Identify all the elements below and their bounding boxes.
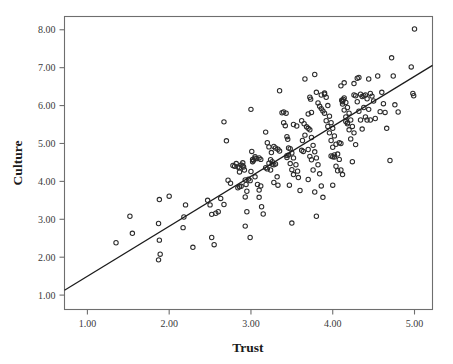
y-tick-label: 7.00 [38,62,56,73]
y-tick-label: 6.00 [38,100,56,111]
x-tick-label: 3.00 [242,318,260,329]
plot-canvas: 1.002.003.004.005.006.007.008.00 1.002.0… [0,0,453,364]
scatter-plot-figure: 1.002.003.004.005.006.007.008.00 1.002.0… [0,0,453,364]
x-axis-title: Trust [232,340,264,355]
y-tick-label: 2.00 [38,252,56,263]
x-tick-label: 1.00 [79,318,97,329]
y-tick-label: 8.00 [38,24,56,35]
y-tick-label: 3.00 [38,214,56,225]
x-tick-label: 5.00 [406,318,424,329]
y-axis-title: Culture [10,141,25,186]
x-tick-label: 4.00 [324,318,342,329]
y-tick-label: 4.00 [38,176,56,187]
x-tick-label: 2.00 [160,318,178,329]
y-tick-label: 1.00 [38,290,56,301]
y-tick-label: 5.00 [38,138,56,149]
